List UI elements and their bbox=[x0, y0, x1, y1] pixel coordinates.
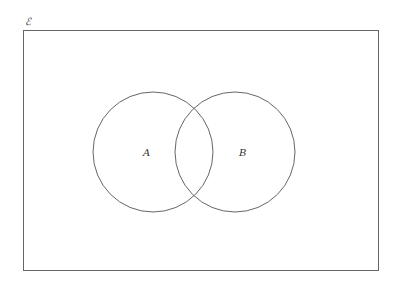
set-b-circle bbox=[175, 92, 295, 212]
universal-set-label: ℰ bbox=[25, 16, 32, 27]
venn-diagram: ℰ A B bbox=[0, 0, 396, 281]
set-a-label: A bbox=[142, 147, 150, 158]
universal-set-rectangle bbox=[24, 31, 379, 271]
set-b-label: B bbox=[238, 147, 246, 158]
set-a-circle bbox=[93, 92, 213, 212]
